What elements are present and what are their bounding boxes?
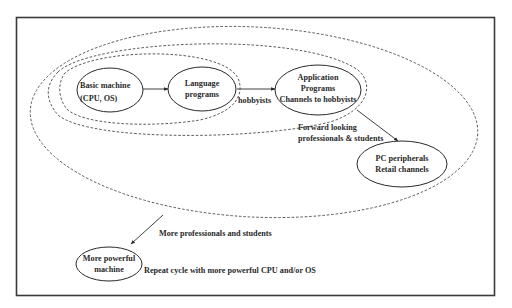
- node-basic-machine-line1: Basic machine: [80, 81, 131, 90]
- node-application-programs: Application Programs Channels to hobbyis…: [275, 65, 361, 115]
- node-basic-machine: Basic machine (CPU, OS): [77, 68, 143, 112]
- node-more-powerful-machine: More powerful machine: [76, 247, 142, 281]
- node-pc-line1: PC peripherals: [376, 154, 429, 163]
- label-forward-looking: Forward looking: [298, 123, 358, 132]
- label-more-professionals: More professionals and students: [159, 229, 272, 238]
- node-basic-machine-line2: (CPU, OS): [80, 94, 118, 103]
- node-application-line3: Channels to hobbyists: [280, 95, 357, 104]
- node-pc-line2: Retail channels: [375, 165, 428, 174]
- node-more-powerful-line1: More powerful: [83, 254, 136, 263]
- node-more-powerful-line2: machine: [94, 265, 124, 274]
- label-professionals-students: professionals & students: [298, 134, 383, 143]
- outer-group-boundary: [25, 15, 482, 228]
- label-hobbyists: hobbyists: [238, 96, 271, 105]
- node-language-programs: Language programs: [168, 67, 236, 111]
- node-language-line1: Language: [185, 79, 220, 88]
- node-pc-peripherals: PC peripherals Retail channels: [357, 141, 447, 187]
- node-application-line1: Application: [298, 73, 339, 82]
- node-application-line2: Programs: [301, 84, 335, 93]
- diagram-canvas: Basic machine (CPU, OS) Language program…: [0, 0, 512, 308]
- node-language-line2: programs: [185, 90, 219, 99]
- label-repeat-cycle: Repeat cycle with more powerful CPU and/…: [144, 266, 316, 275]
